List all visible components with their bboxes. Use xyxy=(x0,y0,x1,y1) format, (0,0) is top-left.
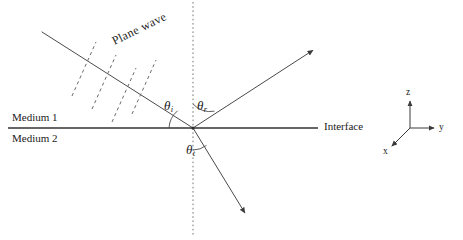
interface-label: Interface xyxy=(324,121,363,132)
wavefront-line xyxy=(92,55,116,109)
theta-subscript: r xyxy=(204,104,207,114)
x-axis-arrow xyxy=(392,128,410,146)
medium-2-label: Medium 2 xyxy=(12,133,58,144)
theta-subscript: i xyxy=(171,104,173,114)
transmitted-angle-label: θt xyxy=(186,143,195,158)
wavefront-group xyxy=(72,42,156,122)
ray-diagram xyxy=(0,0,463,240)
reflected-ray xyxy=(193,50,313,128)
reflected-angle-label: θr xyxy=(197,99,207,114)
y-axis-label: y xyxy=(439,123,444,133)
theta-symbol: θ xyxy=(164,98,170,113)
origin-point xyxy=(191,126,194,129)
x-axis-label: x xyxy=(383,147,388,157)
theta-symbol: θ xyxy=(197,98,203,113)
theta-symbol: θ xyxy=(186,142,192,157)
theta-subscript: t xyxy=(193,148,195,158)
z-axis-label: z xyxy=(406,88,410,98)
medium-1-label: Medium 1 xyxy=(12,112,58,123)
incident-angle-label: θi xyxy=(164,99,173,114)
figure-canvas: Plane wave Medium 1 Medium 2 Interface θ… xyxy=(0,0,463,240)
coordinate-triad xyxy=(392,101,434,146)
transmitted-ray xyxy=(193,128,245,213)
wavefront-line xyxy=(72,42,96,96)
